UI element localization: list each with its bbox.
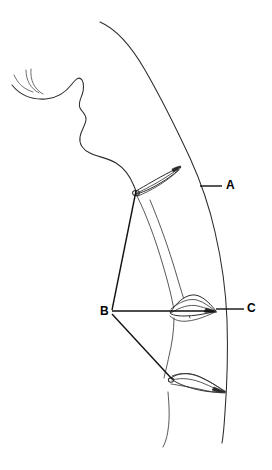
outer-body-curve-group	[100, 22, 227, 443]
label-c: C	[247, 301, 256, 315]
profile-outline	[12, 78, 137, 196]
callout-lines-group	[112, 191, 214, 379]
leader-b-to-lower-fin	[112, 314, 172, 379]
line-drawing-figure: A B C	[0, 0, 272, 470]
diagram-canvas: A B C	[0, 0, 272, 470]
lower-fin-group	[168, 374, 226, 393]
label-a: A	[226, 178, 235, 192]
upper-fin-group	[133, 166, 181, 196]
middle-fin-group	[170, 295, 217, 321]
leader-b-to-upper-fin	[112, 191, 136, 310]
inner-body-curve-middle	[164, 318, 174, 378]
inner-body-curve-lower	[163, 392, 169, 447]
profile-outline-group	[12, 78, 137, 196]
hair-strands-group	[14, 69, 43, 94]
label-b: B	[100, 304, 109, 318]
hair-strand-3	[31, 69, 43, 94]
outer-body-curve	[100, 22, 227, 443]
